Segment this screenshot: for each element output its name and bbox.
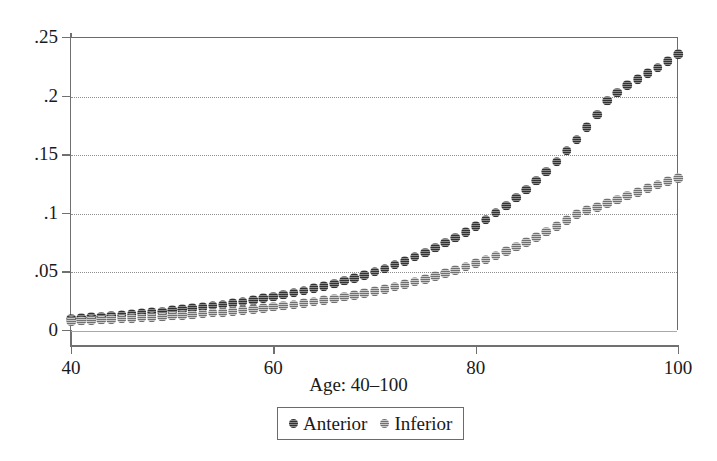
gridline (71, 331, 677, 332)
x-axis-line (70, 345, 679, 347)
data-point (420, 248, 430, 258)
data-point (107, 315, 117, 325)
data-point (633, 74, 643, 84)
gridline (71, 97, 677, 98)
data-point (420, 274, 430, 284)
data-point (147, 313, 157, 323)
y-axis-tick (62, 330, 71, 331)
x-axis-tick (71, 345, 72, 354)
legend-entry-inferior[interactable]: Inferior (380, 414, 452, 433)
data-point (309, 297, 319, 307)
data-point (279, 301, 289, 311)
y-axis-tick-label: .25 (34, 27, 58, 46)
data-point (390, 282, 400, 292)
data-point (339, 292, 349, 302)
y-axis-tick-label: .2 (44, 86, 58, 105)
data-point (481, 255, 491, 265)
data-point (451, 266, 461, 276)
data-point (532, 176, 542, 186)
y-axis-tick (62, 154, 71, 155)
y-axis-tick (62, 213, 71, 214)
data-point (269, 292, 279, 302)
legend-marker-icon (380, 419, 389, 428)
y-axis-tick-label: .15 (34, 144, 58, 163)
data-point (461, 262, 471, 272)
data-point (441, 269, 451, 279)
data-point (198, 309, 208, 319)
data-point (623, 81, 633, 91)
data-point (289, 288, 299, 298)
data-point (491, 208, 501, 218)
data-point (673, 173, 683, 183)
legend-label: Inferior (394, 414, 452, 433)
data-point (178, 311, 188, 321)
data-point (228, 306, 238, 316)
data-point (258, 294, 268, 304)
data-point (410, 252, 420, 262)
legend-label: Anterior (303, 414, 367, 433)
data-point (511, 193, 521, 203)
data-point (117, 314, 127, 324)
x-axis-tick (678, 345, 679, 354)
data-point (542, 167, 552, 177)
data-point (592, 110, 602, 120)
data-point (157, 312, 167, 322)
gridline (71, 155, 677, 156)
data-point (238, 306, 248, 316)
data-point (360, 288, 370, 298)
data-point (430, 272, 440, 282)
data-point (86, 316, 96, 326)
data-point (188, 310, 198, 320)
data-point (552, 157, 562, 167)
data-point (167, 311, 177, 321)
data-point (279, 290, 289, 300)
data-point (248, 304, 258, 314)
data-point (299, 286, 309, 296)
data-point (319, 281, 329, 291)
data-point (441, 238, 451, 248)
data-point (360, 270, 370, 280)
data-point (329, 279, 339, 289)
data-point (602, 96, 612, 106)
data-point (329, 294, 339, 304)
data-point (552, 222, 562, 232)
y-axis-tick-label: 0 (49, 320, 59, 339)
chart-figure: 0.05.1.15.2.25 406080100 Age: 40–100 Ant… (0, 0, 717, 461)
data-point (319, 295, 329, 305)
data-point (501, 201, 511, 211)
data-point (511, 242, 521, 252)
data-point (471, 221, 481, 231)
data-point (350, 273, 360, 283)
chart-legend: Anterior Inferior (277, 407, 464, 440)
data-point (613, 195, 623, 205)
data-point (430, 243, 440, 253)
data-point (370, 267, 380, 277)
y-axis-tick (62, 96, 71, 97)
data-point (400, 256, 410, 266)
y-axis-tick-label: .1 (44, 203, 58, 222)
data-point (522, 238, 532, 248)
y-axis-tick (62, 271, 71, 272)
data-point (653, 63, 663, 73)
data-point (562, 216, 572, 226)
data-point (400, 280, 410, 290)
data-point (66, 316, 76, 326)
data-point (461, 227, 471, 237)
data-point (410, 277, 420, 287)
data-point (350, 290, 360, 300)
data-point (602, 199, 612, 209)
data-point (127, 314, 137, 324)
x-axis-title: Age: 40–100 (0, 374, 717, 396)
legend-marker-icon (289, 419, 298, 428)
data-point (643, 183, 653, 193)
legend-entry-anterior[interactable]: Anterior (289, 414, 367, 433)
data-point (501, 247, 511, 257)
data-point (663, 176, 673, 186)
data-point (76, 316, 86, 326)
data-point (269, 302, 279, 312)
data-point (390, 260, 400, 270)
data-point (258, 303, 268, 313)
y-axis-tick (62, 37, 71, 38)
data-point (673, 50, 683, 60)
data-point (562, 146, 572, 156)
